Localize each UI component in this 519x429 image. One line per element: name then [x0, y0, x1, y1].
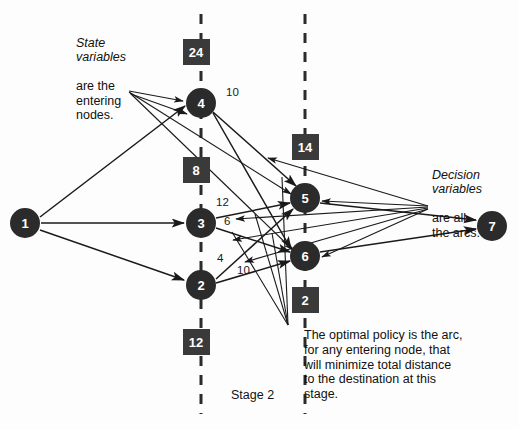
node-1-label: 1 — [21, 216, 28, 231]
arc-4-to-6 — [213, 113, 291, 249]
value-box-2-label: 2 — [301, 293, 308, 308]
value-box-14: 14 — [292, 134, 319, 160]
callout-decision-variables-rest: are all the arcs. — [432, 211, 480, 240]
value-box-8: 8 — [183, 157, 210, 183]
value-box-2: 2 — [292, 287, 319, 313]
stage-label: Stage 2 — [231, 388, 274, 402]
node-6[interactable]: 6 — [290, 241, 320, 271]
arc-group-from-node-1 — [40, 106, 185, 280]
callout-state-variables-rest: are the entering nodes. — [76, 79, 121, 122]
node-1[interactable]: 1 — [10, 208, 40, 238]
arc-4-to-5 — [213, 112, 296, 186]
node-4[interactable]: 4 — [186, 88, 216, 118]
dashed-stage-lines — [201, 14, 305, 414]
arc-weight-2-6: 10 — [237, 264, 250, 276]
node-4-label: 4 — [197, 96, 205, 111]
arc-3-to-6 — [216, 228, 290, 252]
node-3[interactable]: 3 — [186, 208, 216, 238]
node-7-label: 7 — [488, 219, 495, 234]
node-3-label: 3 — [197, 216, 204, 231]
policy-note: The optimal policy is the arc, for any e… — [304, 328, 462, 402]
value-box-12-label: 12 — [189, 335, 203, 350]
value-box-12: 12 — [183, 329, 210, 355]
node-5[interactable]: 5 — [290, 183, 320, 213]
arc-1-to-2 — [40, 230, 184, 280]
value-box-24-label: 24 — [189, 45, 204, 60]
value-box-8-label: 8 — [192, 163, 199, 178]
value-box-24: 24 — [183, 39, 210, 65]
node-5-label: 5 — [301, 191, 308, 206]
arc-weight-3-6: 6 — [224, 215, 230, 227]
callout-state-variables: State variables are the entering nodes. — [76, 21, 126, 123]
arc-weight-3-5: 12 — [216, 196, 229, 208]
callout-state-variables-emphasis: State variables — [76, 36, 126, 65]
diagram-canvas: 24 8 12 14 2 1 — [0, 0, 519, 429]
arc-weight-4-5: 10 — [226, 86, 239, 98]
node-2-label: 2 — [197, 278, 204, 293]
node-2[interactable]: 2 — [186, 270, 216, 300]
arc-weight-2-5: 4 — [217, 252, 223, 264]
callout-decision-variables-emphasis: Decision variables — [432, 168, 482, 197]
node-6-label: 6 — [301, 249, 308, 264]
callout-decision-variables: Decision variables are all the arcs. — [432, 153, 482, 240]
arc-1-to-4 — [40, 106, 185, 217]
callout-leader-decision-variables — [233, 158, 428, 262]
value-box-14-label: 14 — [298, 140, 313, 155]
